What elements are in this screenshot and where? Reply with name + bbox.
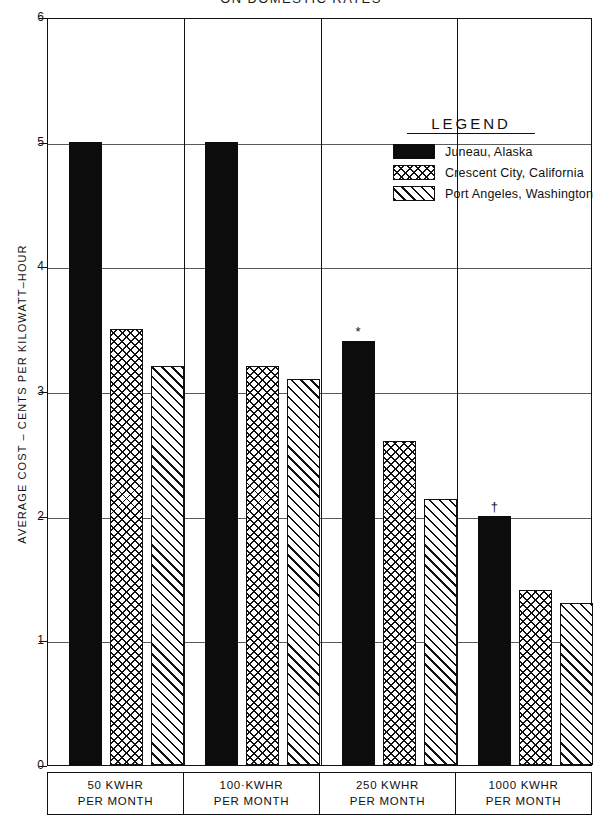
y-axis-tick-label: 6: [14, 10, 44, 24]
legend-entry: Juneau, Alaska: [393, 143, 602, 160]
y-axis-tick-mark: [39, 267, 47, 268]
legend-entries: Juneau, AlaskaCrescent City, CaliforniaP…: [393, 143, 602, 202]
y-axis-tick-label: 2: [14, 509, 44, 523]
y-axis-tick-mark: [39, 392, 47, 393]
legend-swatch: [393, 144, 435, 159]
legend-heading: LEGEND: [407, 115, 535, 134]
legend: LEGEND Juneau, AlaskaCrescent City, Cali…: [393, 115, 602, 206]
y-axis-tick-label: 4: [14, 259, 44, 273]
legend-label: Crescent City, California: [445, 166, 584, 180]
x-axis-category: 250 KWHRPER MONTH: [320, 773, 456, 814]
x-axis-category-line2: PER MONTH: [350, 794, 425, 809]
legend-swatch: [393, 165, 435, 180]
x-axis-category: 100·KWHRPER MONTH: [184, 773, 320, 814]
x-axis-category-boxes: 50 KWHRPER MONTH100·KWHRPER MONTH250 KWH…: [47, 772, 592, 815]
x-axis-category-line2: PER MONTH: [78, 794, 153, 809]
y-axis-tick-label: 3: [14, 384, 44, 398]
group-separator: [184, 19, 185, 765]
bar: [110, 329, 143, 765]
bar: [205, 142, 238, 765]
chart-title: ON DOMESTIC RATES: [0, 0, 602, 6]
y-axis-tick-label: 5: [14, 135, 44, 149]
bar: [287, 379, 320, 765]
x-axis-category: 50 KWHRPER MONTH: [48, 773, 184, 814]
bar: [246, 366, 279, 765]
y-axis-tick-mark: [39, 143, 47, 144]
y-axis-tick-mark: [39, 641, 47, 642]
bar: [69, 142, 102, 765]
legend-entry: Port Angeles, Washington: [393, 185, 602, 202]
y-axis-tick-mark: [39, 766, 47, 767]
y-axis-tick-mark: [39, 517, 47, 518]
legend-entry: Crescent City, California: [393, 164, 602, 181]
group-separator: [321, 19, 322, 765]
x-axis-category: 1000 KWHRPER MONTH: [456, 773, 591, 814]
x-axis-category-line1: 50 KWHR: [87, 778, 143, 793]
bar-footnote-marker: †: [491, 500, 498, 513]
x-axis-category-line2: PER MONTH: [486, 794, 561, 809]
bar: [478, 516, 511, 765]
bar: [342, 341, 375, 765]
plot-area: *† LEGEND Juneau, AlaskaCrescent City, C…: [47, 18, 592, 766]
bar: [560, 603, 593, 765]
bar: [151, 366, 184, 765]
legend-label: Port Angeles, Washington: [445, 187, 593, 201]
bar: [519, 590, 552, 765]
y-axis-tick-mark: [39, 18, 47, 19]
legend-swatch: [393, 186, 435, 201]
bar-footnote-marker: *: [355, 325, 360, 338]
y-axis-tick-label: 1: [14, 633, 44, 647]
x-axis-category-line2: PER MONTH: [214, 794, 289, 809]
x-axis-category-line1: 250 KWHR: [356, 778, 419, 793]
gridline: [48, 268, 591, 269]
bar: [424, 499, 457, 765]
legend-label: Juneau, Alaska: [445, 145, 533, 159]
x-axis-category-line1: 1000 KWHR: [488, 778, 558, 793]
x-axis-category-line1: 100·KWHR: [220, 778, 284, 793]
y-axis-tick-label: 0: [14, 758, 44, 772]
bar: [383, 441, 416, 765]
